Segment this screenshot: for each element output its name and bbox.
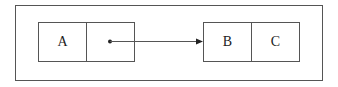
arrowhead-icon bbox=[196, 39, 203, 45]
pointer-arrow bbox=[0, 0, 338, 87]
